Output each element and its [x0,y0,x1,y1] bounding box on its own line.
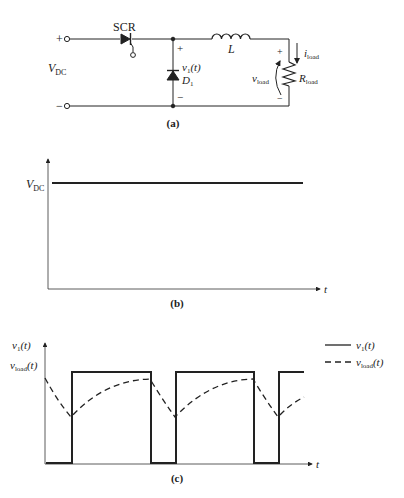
vload-label: vload [252,72,269,86]
voltage-arrow-icon [276,61,281,95]
source-label: VDC [48,61,66,77]
node-plus-sign: + [177,42,183,54]
caption-b: (b) [170,297,184,310]
chart-b-ylabel: VDC [26,177,44,193]
inductor-icon [212,34,250,39]
chart-c-legend: v1(t) vload(t) [325,339,384,370]
iload-label: iload [304,47,320,61]
load-plus-sign: + [277,46,283,57]
caption-a: (a) [167,117,180,130]
diode-label: D1 [181,74,194,88]
chart-b-xlabel: t [324,283,328,295]
chart-c-vload-series [45,378,304,417]
terminal-minus-icon [64,103,69,108]
source-plus-sign: + [56,32,63,46]
circuit-labels: + − VDC SCR + − v1(t) D1 L + − vload ilo… [48,20,320,130]
node-minus-sign: − [177,91,183,103]
scr-icon [121,33,135,57]
legend-label-v1: v1(t) [356,339,375,353]
chart-c-ylabel-vload: vload(t) [10,359,38,373]
chart-c-xlabel: t [316,458,320,470]
figure-canvas: + − VDC SCR + − v1(t) D1 L + − vload ilo… [0,0,404,498]
chart-c: v1(t) vload(t) t (c) v1(t) vload(t) [10,339,384,485]
chart-c-ylabel-v1: v1(t) [12,339,31,353]
rload-label: Rload [298,72,318,86]
caption-c: (c) [171,472,184,485]
inductor-label: L [227,42,235,56]
source-minus-sign: − [56,99,63,113]
terminal-plus-icon [64,36,69,41]
resistor-icon [283,62,295,86]
chart-b: VDC t (b) [26,159,328,310]
v1-label: v1(t) [182,61,201,75]
diode-icon [167,71,179,81]
load-minus-sign: − [277,93,283,104]
legend-label-vload: vload(t) [356,356,384,370]
scr-label: SCR [113,20,136,34]
